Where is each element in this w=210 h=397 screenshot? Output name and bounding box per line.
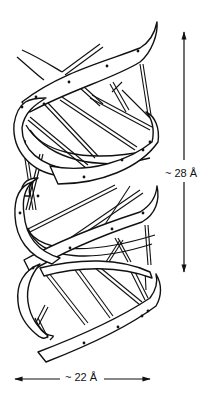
diameter-label: ~ 22 Å [63, 372, 99, 383]
pitch-label: ~ 28 Å [165, 167, 197, 180]
ribbon-2 [14, 98, 70, 176]
helix-diagram [0, 0, 210, 397]
